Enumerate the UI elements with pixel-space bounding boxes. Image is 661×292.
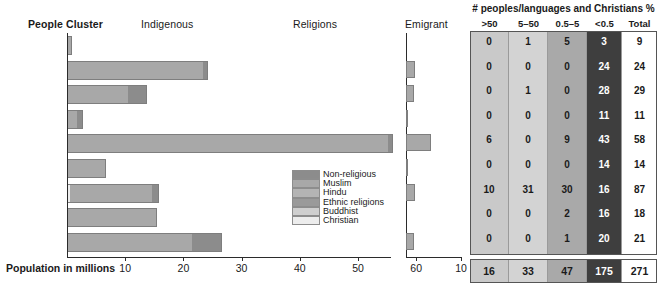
- bar-segment: [192, 233, 222, 252]
- header-people-cluster: People Cluster: [28, 18, 103, 30]
- bar-segment: [67, 233, 194, 252]
- x-tick-label: 40: [285, 262, 315, 274]
- header-emigrant: Emigrant: [405, 18, 448, 30]
- bar-segment: [152, 184, 159, 203]
- emigrant-bar: [406, 184, 415, 201]
- x-axis-title: Population in millions: [6, 262, 115, 274]
- summary-table-panel: # peoples/languages and Christians % >50…: [466, 0, 661, 292]
- table-body-frame: [470, 31, 657, 255]
- table-col-header: >50: [470, 18, 509, 29]
- x-tick-mark: [183, 257, 184, 261]
- emigrant-chart-panel: Emigrant 10: [400, 0, 462, 292]
- legend-swatch-icon: [292, 216, 320, 225]
- table-col-header: 0.5–5: [548, 18, 587, 29]
- table-title: # peoples/languages and Christians %: [466, 3, 661, 14]
- legend-swatch-icon: [292, 188, 320, 197]
- legend-swatch-icon: [292, 170, 320, 179]
- x-tick-label: 50: [343, 262, 373, 274]
- x-tick-mark: [358, 257, 359, 261]
- x-tick-label: 30: [227, 262, 257, 274]
- emigrant-bar: [406, 110, 408, 127]
- bar-segment: [67, 208, 157, 227]
- emigrant-bar: [406, 159, 408, 176]
- bar-segment: [67, 61, 205, 80]
- emigrant-bar: [406, 134, 431, 151]
- legend-swatch-icon: [292, 179, 320, 188]
- bar-segment: [67, 159, 106, 178]
- bar-segment: [203, 61, 207, 80]
- x-tick-mark: [242, 257, 243, 261]
- header-indigenous: Indigenous: [141, 18, 193, 30]
- legend-swatch-icon: [292, 198, 320, 207]
- x-tick-mark: [125, 257, 126, 261]
- bar-segment: [77, 110, 83, 129]
- emigrant-tick-mark: [461, 257, 462, 261]
- x-tick-label: 20: [168, 262, 198, 274]
- emigrant-bar: [406, 233, 414, 250]
- table-col-header: <0.5: [587, 18, 622, 29]
- emigrant-bar: [406, 85, 414, 102]
- table-col-header: Total: [622, 18, 657, 29]
- legend-swatch-icon: [292, 207, 320, 216]
- legend-label: Christian: [323, 215, 359, 225]
- x-tick-mark: [300, 257, 301, 261]
- emigrant-bar: [406, 61, 415, 78]
- table-total-frame: [470, 259, 657, 283]
- bar-segment: [70, 184, 152, 203]
- bar-segment: [388, 134, 392, 153]
- bar-segment: [128, 85, 147, 104]
- table-col-header: 5–50: [509, 18, 548, 29]
- x-axis-line: [67, 257, 391, 258]
- bar-segment: [67, 134, 390, 153]
- bar-segment: [67, 85, 130, 104]
- y-axis-line: [67, 33, 68, 257]
- header-religions: Religions: [293, 18, 337, 30]
- indigenous-chart-panel: People Cluster Indigenous Religions Alta…: [0, 0, 400, 292]
- chart-figure: People Cluster Indigenous Religions Alta…: [0, 0, 661, 292]
- emigrant-x-axis-line: [406, 257, 462, 258]
